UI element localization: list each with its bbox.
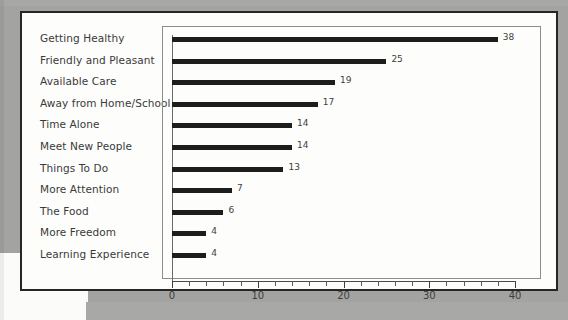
x-tick-minor xyxy=(223,281,224,286)
x-tick-minor xyxy=(292,281,293,286)
chart-plot-frame xyxy=(162,26,541,279)
category-label: Available Care xyxy=(40,75,117,87)
category-label: Meet New People xyxy=(40,140,132,152)
category-label: More Attention xyxy=(40,183,119,195)
x-tick-minor xyxy=(395,281,396,286)
x-tick-major xyxy=(172,281,173,288)
y-axis-line xyxy=(172,35,173,281)
page-bottom-shadow-band xyxy=(86,302,568,320)
x-tick-label: 30 xyxy=(423,290,436,301)
x-tick-major xyxy=(429,281,430,288)
category-label: Friendly and Pleasant xyxy=(40,54,155,66)
category-label: More Freedom xyxy=(40,226,116,238)
x-tick-minor xyxy=(498,281,499,286)
x-tick-minor xyxy=(206,281,207,286)
x-tick-minor xyxy=(481,281,482,286)
x-tick-major xyxy=(515,281,516,288)
x-tick-minor xyxy=(361,281,362,286)
x-tick-label: 0 xyxy=(169,290,175,301)
x-tick-minor xyxy=(464,281,465,286)
category-label: Away from Home/School xyxy=(40,97,171,109)
x-tick-minor xyxy=(241,281,242,286)
x-tick-minor xyxy=(326,281,327,286)
x-tick-label: 10 xyxy=(251,290,264,301)
x-tick-minor xyxy=(378,281,379,286)
category-label-column: Getting HealthyFriendly and PleasantAvai… xyxy=(22,13,170,289)
x-tick-minor xyxy=(446,281,447,286)
x-tick-major xyxy=(258,281,259,288)
x-tick-minor xyxy=(309,281,310,286)
category-label: The Food xyxy=(40,205,89,217)
x-tick-minor xyxy=(189,281,190,286)
category-label: Things To Do xyxy=(40,162,108,174)
category-label: Getting Healthy xyxy=(40,32,125,44)
x-tick-major xyxy=(344,281,345,288)
x-tick-label: 20 xyxy=(337,290,350,301)
scanned-page-background: Getting HealthyFriendly and PleasantAvai… xyxy=(0,0,568,320)
x-tick-minor xyxy=(275,281,276,286)
category-label: Time Alone xyxy=(40,118,100,130)
x-tick-minor xyxy=(412,281,413,286)
category-label: Learning Experience xyxy=(40,248,149,260)
document-page: Getting HealthyFriendly and PleasantAvai… xyxy=(20,11,558,291)
x-tick-label: 40 xyxy=(509,290,522,301)
